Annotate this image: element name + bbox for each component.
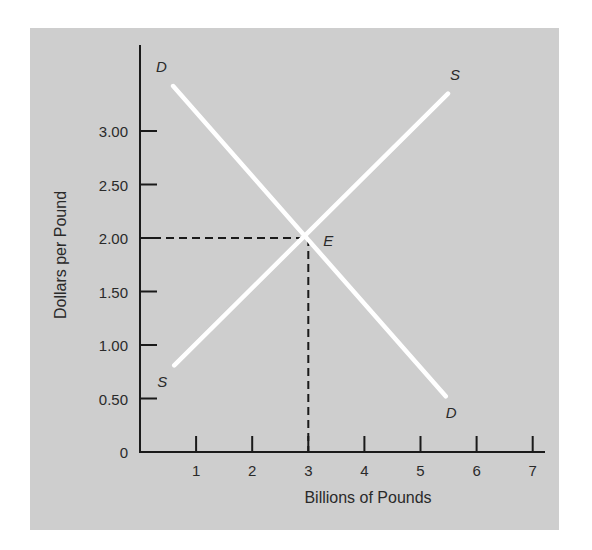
x-tick-label: 3 bbox=[304, 462, 312, 479]
x-tick-label: 6 bbox=[472, 462, 480, 479]
y-tick-label: 0 bbox=[120, 444, 128, 461]
demand-label-end: D bbox=[446, 404, 457, 421]
equilibrium-label: E bbox=[323, 232, 334, 249]
y-tick-label: 2.00 bbox=[99, 230, 128, 247]
y-tick-label: 3.00 bbox=[99, 123, 128, 140]
y-axis-title: Dollars per Pound bbox=[52, 191, 69, 319]
y-tick-label: 1.50 bbox=[99, 284, 128, 301]
x-tick-label: 1 bbox=[192, 462, 200, 479]
labels: 123456700.501.001.502.002.503.00Billions… bbox=[52, 58, 537, 506]
x-tick-label: 7 bbox=[529, 462, 537, 479]
supply-label-end: S bbox=[450, 66, 460, 83]
axes bbox=[139, 45, 545, 453]
y-tick-label: 1.00 bbox=[99, 337, 128, 354]
curves bbox=[173, 86, 448, 396]
y-tick-label: 2.50 bbox=[99, 177, 128, 194]
y-tick-label: 0.50 bbox=[99, 391, 128, 408]
x-tick-label: 5 bbox=[416, 462, 424, 479]
demand-label-start: D bbox=[156, 58, 167, 75]
x-axis-title: Billions of Pounds bbox=[304, 489, 431, 506]
demand-curve bbox=[173, 86, 446, 396]
x-tick-label: 4 bbox=[360, 462, 368, 479]
x-tick-label: 2 bbox=[248, 462, 256, 479]
supply-label-start: S bbox=[157, 373, 167, 390]
supply-demand-chart: 123456700.501.001.502.002.503.00Billions… bbox=[0, 0, 592, 550]
equilibrium-guides bbox=[140, 238, 308, 452]
